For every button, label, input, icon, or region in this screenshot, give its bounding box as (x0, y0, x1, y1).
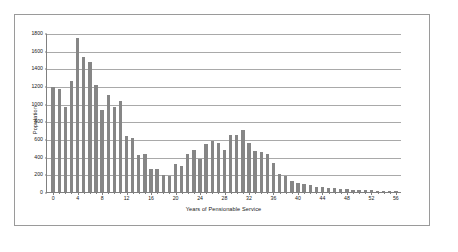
x-tick-mark (384, 192, 385, 194)
x-tick-mark (194, 192, 195, 194)
x-tick-label: 56 (393, 196, 399, 201)
x-tick-label: 24 (197, 196, 203, 201)
bar (266, 154, 269, 192)
bar (272, 163, 275, 192)
bar (211, 141, 214, 192)
x-tick-mark (84, 192, 85, 194)
x-tick-mark (353, 192, 354, 194)
x-tick-mark (90, 192, 91, 194)
x-tick-label: 12 (124, 196, 130, 201)
x-tick-mark (120, 192, 121, 194)
x-tick-mark (65, 192, 66, 194)
bar (247, 143, 250, 192)
y-tick-label: 800 (34, 120, 43, 125)
bar (235, 135, 238, 192)
bar (94, 85, 97, 192)
bar (180, 166, 183, 193)
x-tick-label: 48 (344, 196, 350, 201)
y-tick-label: 1400 (31, 67, 43, 72)
x-tick-mark (255, 192, 256, 194)
bar (217, 143, 220, 192)
bar (223, 150, 226, 192)
bar (131, 138, 134, 192)
bar (143, 154, 146, 192)
x-tick-mark (218, 192, 219, 194)
bar (192, 150, 195, 192)
x-tick-mark (212, 192, 213, 194)
x-tick-mark (237, 192, 238, 194)
x-tick-mark (365, 192, 366, 194)
x-tick-mark (341, 192, 342, 194)
x-tick-mark (182, 192, 183, 194)
x-tick-mark (108, 192, 109, 194)
bar (253, 151, 256, 192)
x-tick-mark (145, 192, 146, 194)
y-tick-label: 1800 (31, 31, 43, 36)
bar (113, 107, 116, 192)
x-tick-mark (139, 192, 140, 194)
x-tick-label: 52 (369, 196, 375, 201)
x-axis-title: Years of Pensionable Service (46, 206, 401, 212)
x-tick-mark (390, 192, 391, 194)
bar (302, 184, 305, 192)
y-tick-label: 1200 (31, 84, 43, 89)
x-tick-mark (378, 192, 379, 194)
bar (186, 154, 189, 192)
bar (198, 159, 201, 192)
bar (241, 130, 244, 192)
bar (284, 176, 287, 192)
bar (88, 62, 91, 192)
x-tick-mark (329, 192, 330, 194)
x-tick-mark (286, 192, 287, 194)
x-tick-mark (163, 192, 164, 194)
bar (76, 38, 79, 192)
bar-series (47, 34, 401, 192)
x-tick-mark (267, 192, 268, 194)
y-tick-label: 1600 (31, 49, 43, 54)
bar (296, 183, 299, 192)
bar (51, 87, 54, 192)
bar (260, 152, 263, 192)
bar (229, 135, 232, 192)
bar (155, 169, 158, 192)
x-tick-mark (59, 192, 60, 194)
y-tick-label: 600 (34, 137, 43, 142)
x-tick-mark (292, 192, 293, 194)
x-tick-mark (231, 192, 232, 194)
x-tick-mark (169, 192, 170, 194)
x-tick-label: 28 (222, 196, 228, 201)
bar (119, 101, 122, 192)
bar (174, 164, 177, 192)
x-tick-label: 4 (76, 196, 79, 201)
y-tick-mark (45, 193, 47, 194)
x-tick-mark (261, 192, 262, 194)
x-tick-mark (280, 192, 281, 194)
x-tick-mark (243, 192, 244, 194)
x-tick-mark (71, 192, 72, 194)
x-tick-label: 8 (101, 196, 104, 201)
bar (162, 175, 165, 192)
x-tick-label: 16 (148, 196, 154, 201)
bar (82, 57, 85, 192)
x-tick-label: 44 (320, 196, 326, 201)
x-tick-mark (114, 192, 115, 194)
bar (309, 185, 312, 192)
bar (58, 89, 61, 192)
x-tick-mark (335, 192, 336, 194)
bar (70, 81, 73, 192)
x-tick-mark (188, 192, 189, 194)
bar (149, 169, 152, 192)
bar (64, 107, 67, 192)
x-tick-mark (310, 192, 311, 194)
bar (290, 181, 293, 192)
x-tick-label: 40 (295, 196, 301, 201)
x-tick-label: 0 (52, 196, 55, 201)
x-tick-mark (206, 192, 207, 194)
y-tick-label: 1000 (31, 102, 43, 107)
x-tick-label: 20 (173, 196, 179, 201)
bar (278, 174, 281, 192)
x-tick-mark (96, 192, 97, 194)
x-tick-mark (359, 192, 360, 194)
x-tick-mark (304, 192, 305, 194)
bar (204, 144, 207, 192)
